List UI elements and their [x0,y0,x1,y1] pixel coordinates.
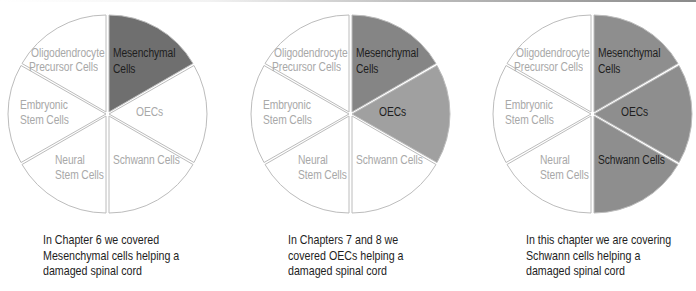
label-neural-line1: Neural [298,153,328,168]
label-schwann: Schwann Cells [113,153,180,168]
label-oligo-line1: Oligodendrocyte [32,46,105,61]
label-neural-line1: Neural [540,153,570,168]
label-oecs: OECs [136,105,163,120]
label-neural-line2: Stem Cells [55,168,104,183]
pie-panel-this-chapter: Oligodendrocyte Precursor Cells Mesenchy… [485,0,696,291]
label-embryonic-line1: Embryonic [263,98,311,113]
label-mesenchymal-line1: Mesenchymal [598,46,660,61]
caption-line: damaged spinal cord [526,263,671,279]
label-oligo-line2: Precursor Cells [272,60,341,75]
caption-line: covered OECs helping a [288,248,404,264]
caption-line: In Chapter 6 we covered [43,232,179,248]
label-schwann: Schwann Cells [356,153,423,168]
label-oligo-line1: Oligodendrocyte [517,46,590,61]
pie-panel-chapters-7-8: Oligodendrocyte Precursor Cells Mesenchy… [243,0,475,291]
label-oligo-line1: Oligodendrocyte [275,46,348,61]
label-mesenchymal-line2: Cells [113,62,135,77]
pie-panel-chapter-6: Oligodendrocyte Precursor Cells Mesenchy… [0,0,232,291]
label-oligo-line2: Precursor Cells [29,60,98,75]
caption-this-chapter: In this chapter we are covering Schwann … [526,232,671,279]
label-neural-line2: Stem Cells [298,168,347,183]
label-mesenchymal-line1: Mesenchymal [113,46,175,61]
label-neural-line2: Stem Cells [540,168,589,183]
caption-line: Mesenchymal cells helping a [43,248,179,264]
label-mesenchymal-line2: Cells [598,62,620,77]
caption-line: In this chapter we are covering [526,232,671,248]
label-embryonic-line2: Stem Cells [263,113,312,128]
label-mesenchymal-line2: Cells [356,62,378,77]
label-oecs: OECs [379,105,406,120]
caption-chapters-7-8: In Chapters 7 and 8 we covered OECs help… [288,232,404,279]
label-mesenchymal-line1: Mesenchymal [356,46,418,61]
label-embryonic-line1: Embryonic [505,98,553,113]
label-embryonic-line2: Stem Cells [20,113,69,128]
label-schwann: Schwann Cells [598,153,665,168]
label-neural-line1: Neural [55,153,85,168]
label-oligo-line2: Precursor Cells [514,60,583,75]
caption-line: damaged spinal cord [43,263,179,279]
caption-line: In Chapters 7 and 8 we [288,232,404,248]
label-embryonic-line2: Stem Cells [505,113,554,128]
caption-chapter-6: In Chapter 6 we covered Mesenchymal cell… [43,232,179,279]
label-oecs: OECs [621,105,648,120]
caption-line: damaged spinal cord [288,263,404,279]
label-embryonic-line1: Embryonic [20,98,68,113]
caption-line: Schwann cells helping a [526,248,671,264]
